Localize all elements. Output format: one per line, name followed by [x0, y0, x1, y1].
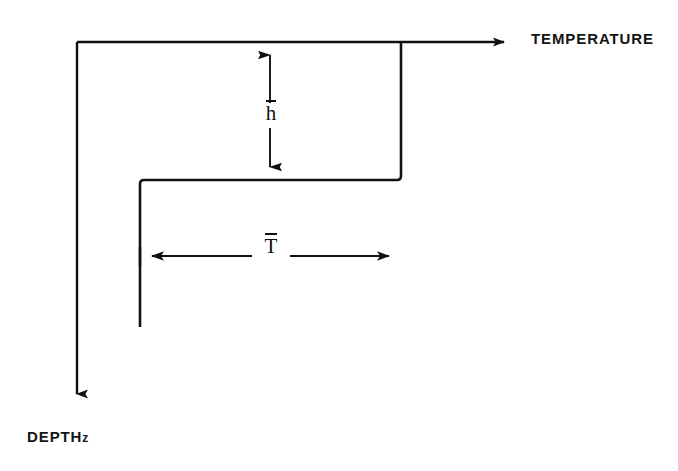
- h-bar-dimension-label: h: [256, 100, 286, 126]
- h-bar-symbol: h: [266, 100, 277, 126]
- t-bar-dimension-label: T: [256, 233, 286, 259]
- diagram-canvas: [0, 0, 678, 471]
- depth-axis-label-text: DEPTH: [27, 428, 82, 445]
- t-bar-symbol: T: [265, 233, 278, 259]
- depth-axis-label-symbol: z: [82, 431, 88, 445]
- temperature-depth-profile-figure: TEMPERATURE DEPTHz h T: [0, 0, 678, 471]
- temperature-axis-label: TEMPERATURE: [531, 30, 654, 47]
- depth-axis-label: DEPTHz: [27, 428, 88, 445]
